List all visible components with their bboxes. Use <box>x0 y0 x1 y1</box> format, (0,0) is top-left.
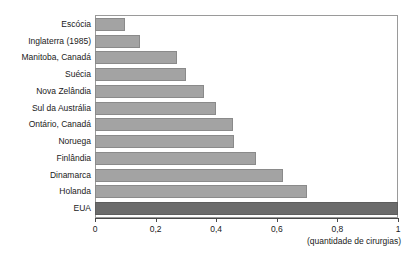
category-label: Noruega <box>0 135 91 148</box>
bar-row <box>95 35 398 48</box>
bar <box>95 202 398 215</box>
bar-row <box>95 68 398 81</box>
bar-row <box>95 18 398 31</box>
bar <box>95 102 216 115</box>
x-tick-label: 0,2 <box>150 224 162 234</box>
x-tick-mark <box>95 218 96 222</box>
x-axis-line <box>95 218 398 219</box>
x-tick-label: 0 <box>93 224 98 234</box>
category-label: Manitoba, Canadá <box>0 51 91 64</box>
bar <box>95 169 283 182</box>
bar-row <box>95 202 398 215</box>
bar-row <box>95 169 398 182</box>
bar-row <box>95 85 398 98</box>
x-axis-caption: (quantidade de cirurgias) <box>307 236 401 246</box>
category-label: Ontário, Canadá <box>0 118 91 131</box>
bar <box>95 185 307 198</box>
category-label: Dinamarca <box>0 169 91 182</box>
bar <box>95 18 125 31</box>
bar <box>95 68 186 81</box>
bar <box>95 152 256 165</box>
x-tick-mark <box>277 218 278 222</box>
category-label: Escócia <box>0 18 91 31</box>
bar <box>95 135 234 148</box>
x-tick-mark <box>337 218 338 222</box>
x-tick-mark <box>156 218 157 222</box>
x-tick-label: 1 <box>396 224 401 234</box>
bar <box>95 85 204 98</box>
x-tick-label: 0,6 <box>271 224 283 234</box>
category-label: Nova Zelândia <box>0 85 91 98</box>
bar-row <box>95 135 398 148</box>
x-tick-label: 0,8 <box>331 224 343 234</box>
category-label: Suécia <box>0 68 91 81</box>
x-tick-label: 0,4 <box>210 224 222 234</box>
category-label: Holanda <box>0 185 91 198</box>
x-tick-mark <box>216 218 217 222</box>
bar-row <box>95 185 398 198</box>
category-label: Finlândia <box>0 152 91 165</box>
x-tick-mark <box>398 218 399 222</box>
bar-row <box>95 51 398 64</box>
bars-container <box>95 16 398 217</box>
bar-row <box>95 152 398 165</box>
bar <box>95 118 233 131</box>
bar-chart: EscóciaInglaterra (1985)Manitoba, Canadá… <box>0 0 413 269</box>
category-axis-labels: EscóciaInglaterra (1985)Manitoba, Canadá… <box>0 16 91 217</box>
category-label: Inglaterra (1985) <box>0 35 91 48</box>
bar-row <box>95 118 398 131</box>
category-label: Sul da Austrália <box>0 102 91 115</box>
bar <box>95 51 177 64</box>
category-label: EUA <box>0 202 91 215</box>
bar-row <box>95 102 398 115</box>
bar <box>95 35 140 48</box>
